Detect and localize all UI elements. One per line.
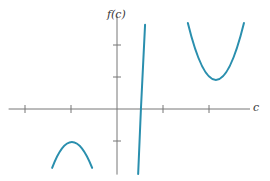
curves	[52, 23, 244, 174]
left-branch-downward-parabola	[52, 142, 92, 168]
middle-steep-branch	[138, 25, 145, 174]
axes	[9, 16, 250, 174]
function-plot	[0, 0, 270, 181]
x-axis-label: c	[253, 101, 259, 114]
right-branch-upward-parabola	[188, 23, 244, 80]
y-axis-label: f(c)	[107, 8, 126, 21]
